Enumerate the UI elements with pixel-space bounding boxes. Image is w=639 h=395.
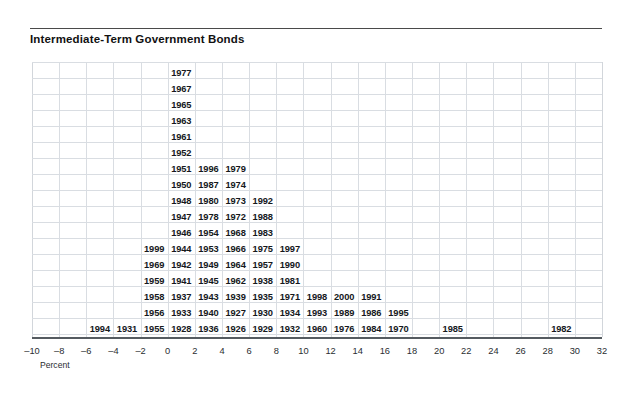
year-cell: 1991 <box>358 289 385 305</box>
year-cell: 1976 <box>331 321 358 337</box>
grid-line-vertical <box>575 62 576 337</box>
year-cell: 1962 <box>222 273 249 289</box>
year-cell: 1985 <box>439 321 466 337</box>
year-cell: 1979 <box>222 161 249 177</box>
year-cell: 1992 <box>249 193 276 209</box>
year-cell: 1997 <box>276 241 303 257</box>
year-cell: 1949 <box>195 257 222 273</box>
x-tick-label: 10 <box>290 345 316 357</box>
year-cell: 1927 <box>222 305 249 321</box>
grid-line-vertical <box>521 62 522 337</box>
x-tick-label: 16 <box>372 345 398 357</box>
x-tick-label: –8 <box>46 345 72 357</box>
x-axis-line <box>32 337 602 339</box>
grid-line-vertical <box>32 62 33 337</box>
x-tick-label: 4 <box>209 345 235 357</box>
grid-line-vertical <box>86 62 87 337</box>
x-tick-label: –4 <box>100 345 126 357</box>
year-cell: 1951 <box>168 161 195 177</box>
year-cell: 1982 <box>548 321 575 337</box>
grid-line-vertical <box>385 62 386 337</box>
year-cell: 1990 <box>276 257 303 273</box>
grid-line-vertical <box>548 62 549 337</box>
x-tick-label: 6 <box>236 345 262 357</box>
grid-line-horizontal <box>32 238 602 239</box>
year-cell: 1953 <box>195 241 222 257</box>
grid-line-horizontal <box>32 270 602 271</box>
year-cell: 1941 <box>168 273 195 289</box>
x-tick-label: 28 <box>535 345 561 357</box>
x-tick-label: 24 <box>480 345 506 357</box>
year-cell: 1972 <box>222 209 249 225</box>
x-tick-label: 32 <box>589 345 615 357</box>
year-cell: 1999 <box>141 241 168 257</box>
year-cell: 1988 <box>249 209 276 225</box>
grid-line-horizontal <box>32 206 602 207</box>
grid-line-horizontal <box>32 62 602 63</box>
plot-area: 1994193119551956195819591969199919281933… <box>32 62 602 337</box>
grid-line-horizontal <box>32 78 602 79</box>
year-cell: 1952 <box>168 145 195 161</box>
year-cell: 2000 <box>331 289 358 305</box>
x-tick-label: 20 <box>426 345 452 357</box>
grid-line-vertical <box>59 62 60 337</box>
year-cell: 1930 <box>249 305 276 321</box>
year-cell: 1934 <box>276 305 303 321</box>
x-tick-label: 18 <box>399 345 425 357</box>
x-tick-label: 26 <box>508 345 534 357</box>
year-cell: 1977 <box>168 65 195 81</box>
year-cell: 1984 <box>358 321 385 337</box>
grid-line-horizontal <box>32 190 602 191</box>
year-cell: 1954 <box>195 225 222 241</box>
x-axis-label: Percent <box>40 360 70 371</box>
year-cell: 1963 <box>168 113 195 129</box>
grid-line-vertical <box>493 62 494 337</box>
year-cell: 1994 <box>86 321 113 337</box>
year-cell: 1995 <box>385 305 412 321</box>
year-cell: 1940 <box>195 305 222 321</box>
header-rule <box>30 28 602 29</box>
chart-page: Intermediate-Term Government Bonds 19941… <box>0 0 639 395</box>
year-cell: 1929 <box>249 321 276 337</box>
year-cell: 1974 <box>222 177 249 193</box>
grid-line-vertical <box>439 62 440 337</box>
grid-line-horizontal <box>32 126 602 127</box>
year-cell: 1970 <box>385 321 412 337</box>
year-cell: 1996 <box>195 161 222 177</box>
year-cell: 1966 <box>222 241 249 257</box>
year-cell: 1964 <box>222 257 249 273</box>
x-tick-label: 0 <box>155 345 181 357</box>
year-cell: 1968 <box>222 225 249 241</box>
x-tick-label: 30 <box>562 345 588 357</box>
grid-line-horizontal <box>32 142 602 143</box>
year-cell: 1965 <box>168 97 195 113</box>
year-cell: 1957 <box>249 257 276 273</box>
grid-line-vertical <box>466 62 467 337</box>
year-cell: 1933 <box>168 305 195 321</box>
year-cell: 1958 <box>141 289 168 305</box>
year-cell: 1986 <box>358 305 385 321</box>
year-cell: 1961 <box>168 129 195 145</box>
year-cell: 1938 <box>249 273 276 289</box>
year-cell: 1932 <box>276 321 303 337</box>
x-tick-label: 8 <box>263 345 289 357</box>
year-cell: 1998 <box>303 289 330 305</box>
x-tick-label: 22 <box>453 345 479 357</box>
year-cell: 1926 <box>222 321 249 337</box>
x-tick-label: –2 <box>128 345 154 357</box>
year-cell: 1987 <box>195 177 222 193</box>
grid-line-horizontal <box>32 110 602 111</box>
year-cell: 1943 <box>195 289 222 305</box>
grid-line-vertical <box>412 62 413 337</box>
x-tick-label: –10 <box>19 345 45 357</box>
year-cell: 1993 <box>303 305 330 321</box>
year-cell: 1948 <box>168 193 195 209</box>
x-tick-label: 2 <box>182 345 208 357</box>
year-cell: 1931 <box>113 321 140 337</box>
year-cell: 1937 <box>168 289 195 305</box>
grid-line-horizontal <box>32 286 602 287</box>
year-cell: 1989 <box>331 305 358 321</box>
year-cell: 1971 <box>276 289 303 305</box>
year-cell: 1978 <box>195 209 222 225</box>
grid-line-horizontal <box>32 158 602 159</box>
